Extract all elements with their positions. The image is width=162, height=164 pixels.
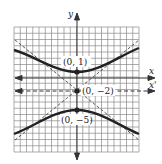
y-axis-arrow-up-icon [75, 13, 80, 20]
y-axis-label: y [67, 9, 74, 19]
point-label-lower: (0, −5) [61, 115, 93, 125]
x-axis-arrow-left-icon [15, 76, 22, 81]
center-point [74, 88, 79, 93]
x-axis-label: x [149, 66, 154, 76]
hyperbola-figure: y x x' (0, 1) (0, −2) (0, −5) [0, 0, 162, 164]
y-axis [75, 13, 80, 160]
x-prime-axis-label: x' [149, 80, 157, 90]
vertex-point-lower [74, 107, 79, 112]
x-axis [15, 76, 155, 81]
point-label-upper: (0, 1) [63, 57, 87, 67]
vertex-point-upper [74, 69, 79, 74]
y-axis-arrow-down-icon [75, 153, 80, 160]
point-label-center: (0, −2) [82, 86, 114, 96]
